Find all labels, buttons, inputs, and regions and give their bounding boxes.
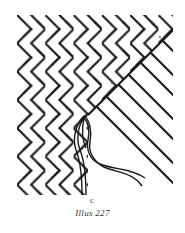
point-label-c: C: [0, 197, 185, 205]
figure-caption: Illus 227: [0, 208, 185, 218]
herringbone-field: [17, 15, 173, 195]
pattern-area: [17, 0, 185, 210]
